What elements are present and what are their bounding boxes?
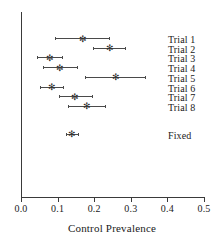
x-tick-label-2: 0.2	[88, 203, 101, 214]
plot-area: 0.00.10.20.30.40.5 ✻✻✻✻✻✻✻✻✻ Trial 1Tria…	[0, 0, 224, 244]
point-estimate-marker: ✻	[112, 74, 119, 81]
forest-plot-figure: 0.00.10.20.30.40.5 ✻✻✻✻✻✻✻✻✻ Trial 1Tria…	[0, 0, 224, 244]
x-tick-label-0: 0.0	[14, 203, 27, 214]
ci-lower-cap	[55, 37, 56, 40]
point-estimate-marker: ✻	[68, 131, 75, 138]
x-tick-3	[131, 197, 132, 202]
y-axis-line	[21, 12, 22, 198]
ci-lower-cap	[68, 105, 69, 108]
ci-upper-cap	[77, 66, 78, 69]
row-label-fixed: Fixed	[168, 129, 191, 140]
point-estimate-marker: ✻	[83, 103, 90, 110]
ci-upper-cap	[105, 105, 106, 108]
x-axis-line	[21, 197, 205, 198]
x-tick-label-5: 0.5	[197, 203, 210, 214]
point-estimate-marker: ✻	[48, 84, 55, 91]
point-estimate-marker: ✻	[106, 45, 113, 52]
ci-upper-cap	[125, 47, 126, 50]
ci-upper-cap	[109, 37, 110, 40]
point-estimate-marker: ✻	[46, 54, 53, 61]
point-estimate-marker: ✻	[56, 64, 63, 71]
ci-lower-cap	[43, 66, 44, 69]
point-estimate-marker: ✻	[79, 35, 86, 42]
ci-lower-cap	[37, 56, 38, 59]
x-tick-label-1: 0.1	[51, 203, 64, 214]
x-tick-1	[58, 197, 59, 202]
x-tick-5	[204, 197, 205, 202]
ci-upper-cap	[63, 86, 64, 89]
x-tick-2	[94, 197, 95, 202]
ci-upper-cap	[145, 76, 146, 79]
x-tick-label-4: 0.4	[161, 203, 174, 214]
ci-upper-cap	[62, 56, 63, 59]
x-tick-label-3: 0.3	[124, 203, 137, 214]
ci-lower-cap	[85, 76, 86, 79]
ci-lower-cap	[59, 95, 60, 98]
ci-upper-cap	[78, 133, 79, 136]
row-label-trial-8: Trial 8	[168, 101, 195, 112]
x-axis-title: Control Prevalence	[0, 222, 224, 234]
x-tick-4	[167, 197, 168, 202]
ci-upper-cap	[92, 95, 93, 98]
x-tick-0	[21, 197, 22, 202]
ci-lower-cap	[93, 47, 94, 50]
ci-lower-cap	[40, 86, 41, 89]
point-estimate-marker: ✻	[71, 93, 78, 100]
